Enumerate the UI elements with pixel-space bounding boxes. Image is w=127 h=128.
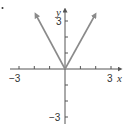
absolute-value-graph: −3 3 x y 3 −3 xyxy=(0,0,127,128)
x-max-label: 3 xyxy=(107,73,113,84)
y-max-label: 3 xyxy=(56,16,62,27)
x-min-label: −3 xyxy=(9,73,21,84)
y-min-label: −3 xyxy=(49,112,61,123)
x-axis-label: x xyxy=(116,72,122,84)
curve-right-branch xyxy=(65,15,95,69)
choice-bullet-icon xyxy=(2,7,4,9)
